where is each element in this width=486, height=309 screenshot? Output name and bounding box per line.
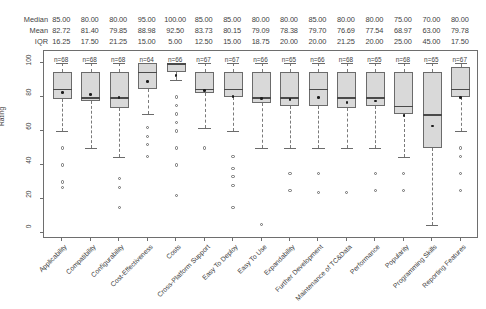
stats-cell: 79.70: [302, 25, 332, 36]
outlier-point: [118, 186, 121, 189]
whisker-cap-upper: [85, 63, 97, 64]
stats-cell: 82.72: [46, 25, 76, 36]
outlier-point: [61, 163, 64, 166]
outlier-point: [459, 172, 462, 175]
whisker-lower: [318, 106, 319, 149]
x-tick-mark: [403, 238, 404, 241]
stats-cell: 80.00: [75, 14, 105, 25]
median-line: [138, 72, 157, 74]
whisker-lower: [461, 97, 462, 131]
whisker-cap-upper: [255, 63, 267, 64]
mean-marker: [459, 96, 462, 99]
mean-marker: [146, 80, 149, 83]
whisker-cap-upper: [56, 63, 68, 64]
whisker-cap-lower: [341, 148, 353, 149]
whisker-lower: [262, 103, 263, 148]
summary-stats-table: Median 85.0080.0080.0095.00100.0085.0085…: [0, 14, 486, 48]
count-label: n=66: [247, 56, 275, 63]
stats-row-mean: Mean 82.7281.4079.8588.9892.5083.7380.15…: [0, 25, 486, 36]
whisker-cap-lower: [369, 148, 381, 149]
stats-cell: 100.00: [160, 14, 190, 25]
outlier-point: [402, 172, 405, 175]
outlier-point: [260, 223, 263, 226]
stats-row-iqr: IQR 16.2517.5021.2515.005.0012.5015.0018…: [0, 36, 486, 47]
stats-cell: 85.00: [217, 14, 247, 25]
outlier-point: [175, 95, 178, 98]
outlier-point: [175, 112, 178, 115]
count-label: n=68: [104, 56, 132, 63]
outlier-point: [175, 104, 178, 107]
count-label: n=66: [161, 56, 189, 63]
whisker-upper: [205, 63, 206, 72]
stats-row-label-median: Median: [8, 14, 48, 25]
stats-cell: 79.09: [246, 25, 276, 36]
count-label: n=68: [389, 56, 417, 63]
whisker-upper: [233, 63, 234, 72]
x-tick-mark: [118, 238, 119, 241]
x-tick-label: Performance: [349, 243, 381, 275]
whisker-lower: [233, 97, 234, 131]
whisker-cap-lower: [255, 148, 267, 149]
mean-marker: [317, 96, 320, 99]
mean-marker: [403, 114, 406, 117]
x-tick-mark: [175, 238, 176, 241]
mean-marker: [431, 125, 434, 128]
x-tick-label: Cross-Platform Support: [155, 243, 210, 298]
stats-cell: 95.00: [132, 14, 162, 25]
outlier-point: [175, 121, 178, 124]
stats-cell: 75.00: [388, 14, 418, 25]
y-axis-label: Rating: [0, 107, 5, 126]
stats-cell: 15.00: [132, 36, 162, 47]
stats-cell: 17.50: [445, 36, 475, 47]
stats-cell: 70.00: [416, 14, 446, 25]
outlier-point: [61, 186, 64, 189]
stats-cell: 21.25: [103, 36, 133, 47]
x-tick-mark: [431, 238, 432, 241]
y-tick-label: 20: [25, 191, 32, 205]
stats-cell: 80.00: [103, 14, 133, 25]
whisker-lower: [375, 106, 376, 149]
whisker-upper: [347, 63, 348, 72]
whisker-cap-lower: [198, 128, 210, 129]
whisker-cap-lower: [142, 114, 154, 115]
count-label: n=64: [133, 56, 161, 63]
stats-cell: 68.97: [388, 25, 418, 36]
median-line: [309, 89, 328, 91]
whisker-cap-lower: [227, 131, 239, 132]
stats-cell: 18.75: [246, 36, 276, 47]
stats-cell: 79.78: [445, 25, 475, 36]
outlier-point: [288, 172, 291, 175]
whisker-cap-upper: [113, 63, 125, 64]
stats-cell: 79.85: [103, 25, 133, 36]
whisker-cap-upper: [312, 63, 324, 64]
box-iqr: [138, 63, 157, 89]
stats-cell: 63.00: [416, 25, 446, 36]
x-tick-label: Maintenance of TC&Data: [294, 243, 353, 302]
box-iqr: [451, 67, 470, 97]
x-tick-mark: [90, 238, 91, 241]
whisker-upper: [262, 63, 263, 72]
stats-cell: 78.38: [274, 25, 304, 36]
x-tick-mark: [317, 238, 318, 241]
whisker-cap-lower: [455, 131, 467, 132]
x-tick-mark: [261, 238, 262, 241]
whisker-upper: [404, 63, 405, 72]
whisker-upper: [432, 63, 433, 72]
y-tick-label: 100: [25, 55, 32, 69]
x-tick-mark: [460, 238, 461, 241]
whisker-upper: [318, 63, 319, 72]
whisker-upper: [290, 63, 291, 72]
y-tick-label: 60: [25, 123, 32, 137]
whisker-cap-lower: [113, 157, 125, 158]
stats-cell: 80.00: [445, 14, 475, 25]
mean-marker: [203, 89, 206, 92]
stats-cell: 92.50: [160, 25, 190, 36]
outlier-point: [288, 189, 291, 192]
whisker-upper: [375, 63, 376, 72]
outlier-point: [317, 191, 320, 194]
whisker-upper: [91, 63, 92, 72]
outlier-point: [175, 194, 178, 197]
stats-cell: 83.73: [189, 25, 219, 36]
stats-row-median: Median 85.0080.0080.0095.00100.0085.0085…: [0, 14, 486, 25]
whisker-cap-lower: [56, 131, 68, 132]
